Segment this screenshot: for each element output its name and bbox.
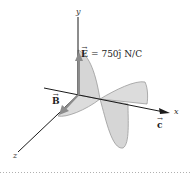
y-axis-label: y <box>76 8 81 16</box>
x-axis-label: x <box>174 108 179 116</box>
em-wave-diagram <box>0 0 192 174</box>
vector-arrow-icon: → <box>81 45 88 52</box>
x-axis-arrowhead <box>159 108 170 114</box>
electric-wave-lobe-2 <box>100 99 128 148</box>
vector-arrow-icon: → <box>157 116 162 123</box>
electric-field-equation: = 750ĵ N/C <box>91 50 142 59</box>
wave-velocity-symbol: → c <box>157 121 162 130</box>
electric-field-symbol: → E <box>81 50 88 59</box>
magnetic-field-symbol: → B <box>52 97 60 106</box>
vector-arrow-icon: → <box>52 92 60 99</box>
z-axis-label: z <box>13 152 17 160</box>
